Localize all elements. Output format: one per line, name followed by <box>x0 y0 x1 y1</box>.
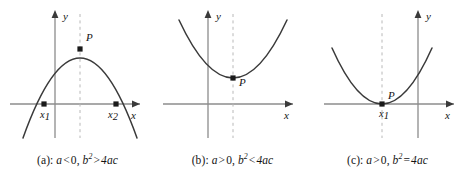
root-label-x2: x2 <box>107 109 119 122</box>
panel-c-discriminant-value: 4ac <box>411 154 428 166</box>
panel-c-coefficient-value: 0, <box>381 154 390 166</box>
panel-b-coefficient-symbol: a <box>212 154 218 166</box>
y-axis-label: y <box>215 10 221 22</box>
panel-a-coefficient-operator: < <box>62 154 71 166</box>
panel-b-discriminant-value: 4ac <box>256 154 273 166</box>
parabola-curve <box>332 48 432 104</box>
root-label-x1: x1 <box>378 108 389 121</box>
x-axis-label: x <box>130 109 136 121</box>
panel-a-caption: (a): a<0, b2>4ac <box>0 152 155 166</box>
panel-c-plot: P y x x1 <box>310 0 465 140</box>
panel-c-caption: (c): a>0, b2=4ac <box>310 152 465 166</box>
panel-b-caption-prefix: (b): <box>192 154 209 166</box>
panel-b-plot: P y x <box>155 0 310 140</box>
panel-c: P y x x1 (c): a>0, b2=4ac <box>310 0 465 178</box>
vertex-marker <box>230 75 235 80</box>
x-axis-label: x <box>444 109 450 121</box>
panel-c-caption-prefix: (c): <box>347 154 363 166</box>
vertex-marker <box>77 46 82 51</box>
panel-a-discriminant-value: 4ac <box>101 154 118 166</box>
vertex-label: P <box>238 76 246 88</box>
panel-c-discriminant-operator: = <box>402 154 411 166</box>
panel-a-plot: P y x x1 x2 <box>0 0 155 140</box>
y-axis <box>205 10 212 138</box>
y-axis-label: y <box>425 10 431 22</box>
y-axis-label: y <box>62 10 68 22</box>
panel-b-caption: (b): a>0, b2<4ac <box>155 152 310 166</box>
x-axis-label: x <box>283 109 289 121</box>
panel-a-discriminant-operator: > <box>92 154 101 166</box>
x-axis <box>324 101 454 108</box>
panel-a: P y x x1 x2 (a): a<0, b2>4ac <box>0 0 155 178</box>
panel-b: P y x (b): a>0, b2<4ac <box>155 0 310 178</box>
vertex-label: P <box>387 89 395 101</box>
root-marker-x2 <box>113 101 118 106</box>
root-label-x1: x1 <box>39 109 50 122</box>
panel-b-coefficient-operator: > <box>218 154 227 166</box>
panel-c-coefficient-operator: > <box>372 154 381 166</box>
x-axis <box>163 101 293 108</box>
panel-a-caption-prefix: (a): <box>37 154 53 166</box>
vertex-marker <box>379 101 384 106</box>
vertex-label: P <box>85 31 93 43</box>
panel-a-coefficient-value: 0, <box>71 154 80 166</box>
quadratic-cases-figure: P y x x1 x2 (a): a<0, b2>4ac <box>0 0 466 178</box>
x-axis <box>10 101 140 108</box>
root-marker-x1 <box>41 101 46 106</box>
panel-b-coefficient-value: 0, <box>226 154 235 166</box>
